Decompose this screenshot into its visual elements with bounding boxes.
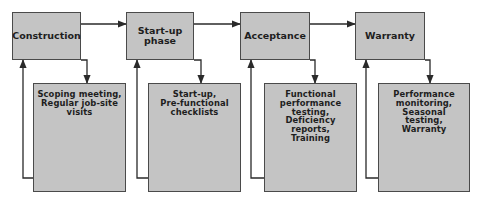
phase-title-line: Acceptance [244, 31, 306, 41]
feedback-arrow [366, 60, 378, 178]
feedback-arrow [251, 60, 264, 178]
down-arrow [81, 60, 87, 83]
detail-line: checklists [171, 108, 219, 117]
detail-box-acceptance: Functional performance testing, Deficien… [264, 83, 357, 192]
detail-box-construction: Scoping meeting, Regular job-site visits [33, 83, 126, 192]
feedback-arrow [23, 60, 33, 178]
phase-box-start-up: Start-up phase [126, 12, 194, 60]
detail-line: Warranty [402, 125, 447, 134]
down-arrow [425, 60, 430, 83]
down-arrow [194, 60, 201, 83]
down-arrow [310, 60, 315, 83]
phase-title-line: Construction [12, 31, 81, 41]
process-flow-diagram: Construction Scoping meeting, Regular jo… [0, 0, 481, 202]
detail-line: visits [67, 108, 93, 117]
detail-box-warranty: Performance monitoring, Seasonal testing… [378, 83, 470, 192]
phase-box-warranty: Warranty [355, 12, 425, 60]
phase-title-line: Warranty [365, 31, 415, 41]
feedback-arrow [137, 60, 148, 178]
detail-line: Training [291, 134, 330, 143]
detail-box-start-up: Start-up, Pre-functional checklists [148, 83, 241, 192]
phase-title-line: phase [144, 36, 176, 46]
phase-box-construction: Construction [12, 12, 81, 60]
phase-box-acceptance: Acceptance [240, 12, 310, 60]
